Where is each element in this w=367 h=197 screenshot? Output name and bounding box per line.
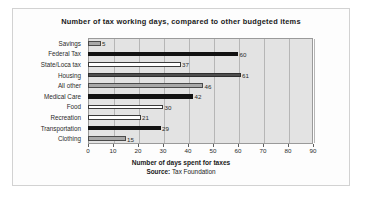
- bar-row: 5: [88, 38, 313, 49]
- bar-value-label: 5: [102, 40, 105, 47]
- bar-value-label: 60: [240, 50, 247, 57]
- bar-value-label: 30: [165, 103, 172, 110]
- source-value: Tax Foundation: [170, 168, 215, 175]
- source-label: Source:: [146, 168, 170, 175]
- category-label: All other: [14, 80, 85, 91]
- bar-value-label: 37: [182, 61, 189, 68]
- bar-row: 21: [88, 112, 313, 123]
- bar[interactable]: 29: [88, 126, 161, 131]
- x-axis-title: Number of days spent for taxes: [12, 159, 350, 166]
- x-tick-label: 70: [260, 147, 267, 154]
- category-label: Medical Care: [14, 91, 85, 102]
- chart-figure: Number of tax working days, compared to …: [0, 0, 367, 197]
- bar-row: 46: [88, 80, 313, 91]
- x-tick-label: 50: [210, 147, 217, 154]
- x-tick-label: 30: [160, 147, 167, 154]
- bar-row: 42: [88, 91, 313, 102]
- bar[interactable]: 61: [88, 73, 241, 78]
- category-label: Housing: [14, 70, 85, 81]
- y-axis-category-labels: SavingsFederal TaxState/Loca taxHousingA…: [14, 38, 85, 144]
- x-tick-label: 80: [285, 147, 292, 154]
- plot-wrapper: 5603761464230212915: [88, 38, 313, 144]
- bar[interactable]: 15: [88, 136, 126, 141]
- source-note: Source: Tax Foundation: [12, 168, 350, 175]
- category-label: Recreation: [14, 112, 85, 123]
- bar[interactable]: 42: [88, 94, 193, 99]
- bar-row: 37: [88, 59, 313, 70]
- bar-row: 30: [88, 102, 313, 113]
- bar-row: 15: [88, 133, 313, 144]
- bar-value-label: 46: [205, 82, 212, 89]
- x-tick-label: 20: [135, 147, 142, 154]
- bar[interactable]: 60: [88, 52, 238, 57]
- bar-row: 61: [88, 70, 313, 81]
- bar[interactable]: 5: [88, 41, 101, 46]
- bar-value-label: 29: [162, 125, 169, 132]
- bar-value-label: 15: [127, 135, 134, 142]
- bar[interactable]: 46: [88, 83, 203, 88]
- bar[interactable]: 30: [88, 105, 163, 110]
- bar[interactable]: 37: [88, 62, 181, 67]
- category-label: State/Loca tax: [14, 59, 85, 70]
- category-label: Transportation: [14, 123, 85, 134]
- category-label: Federal Tax: [14, 49, 85, 60]
- x-tick-label: 10: [110, 147, 117, 154]
- chart-title: Number of tax working days, compared to …: [12, 17, 350, 26]
- x-tick-label: 40: [185, 147, 192, 154]
- bar-value-label: 61: [242, 72, 249, 79]
- bar-value-label: 21: [142, 114, 149, 121]
- bar-rows: 5603761464230212915: [88, 38, 313, 144]
- x-axis: 0102030405060708090: [88, 144, 313, 156]
- category-label: Clothing: [14, 133, 85, 144]
- bar[interactable]: 21: [88, 115, 141, 120]
- bar-row: 60: [88, 49, 313, 60]
- x-tick-label: 0: [86, 147, 89, 154]
- gridline: [314, 39, 315, 143]
- category-label: Food: [14, 102, 85, 113]
- x-tick-label: 60: [235, 147, 242, 154]
- bar-value-label: 42: [195, 93, 202, 100]
- bar-row: 29: [88, 123, 313, 134]
- x-tick-label: 90: [310, 147, 317, 154]
- category-label: Savings: [14, 38, 85, 49]
